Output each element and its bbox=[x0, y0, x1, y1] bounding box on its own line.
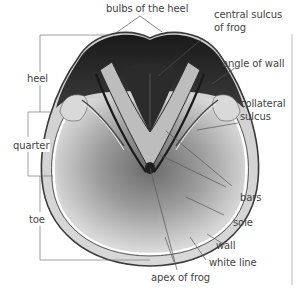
label-wall: wall bbox=[216, 239, 235, 252]
label-sole: sole bbox=[233, 216, 253, 229]
label-angle-of-wall: angle of wall bbox=[222, 57, 284, 70]
label-heel: heel bbox=[26, 72, 49, 85]
label-toe: toe bbox=[28, 213, 46, 226]
label-bulbs-of-the-heel: bulbs of the heel bbox=[106, 2, 188, 15]
label-central-sulcus-line2: of frog bbox=[214, 21, 246, 34]
label-bars: bars bbox=[240, 191, 261, 204]
hoof-diagram: bulbs of the heel central sulcus of frog… bbox=[0, 0, 298, 290]
label-apex-of-frog: apex of frog bbox=[151, 271, 210, 284]
label-white-line: white line bbox=[209, 256, 257, 269]
label-central-sulcus-line1: central sulcus bbox=[214, 8, 282, 21]
label-collateral-sulcus-line2: sulcus bbox=[240, 110, 271, 123]
label-quarter: quarter bbox=[12, 139, 50, 152]
label-collateral-sulcus-line1: collateral bbox=[240, 97, 285, 110]
